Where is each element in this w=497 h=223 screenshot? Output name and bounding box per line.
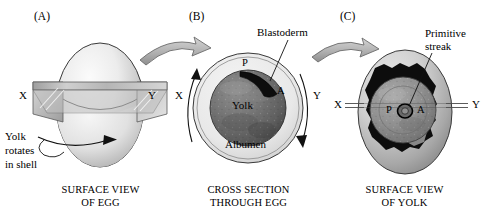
caption-c-line2: OF YOLK — [332, 197, 477, 208]
label-posterior-c: P — [386, 104, 392, 115]
caption-b-line1: CROSS SECTION — [176, 184, 321, 195]
axis-label-x-b: X — [175, 90, 183, 102]
label-posterior-b: P — [242, 57, 248, 68]
caption-a-line2: OF EGG — [28, 197, 173, 208]
annotation-primitive-streak-line1: Primitive — [425, 28, 466, 40]
label-yolk-b: Yolk — [232, 100, 253, 112]
annotation-yolk-rotates-line2: rotates — [5, 145, 34, 157]
caption-b-line2: THROUGH EGG — [176, 197, 321, 208]
arrow-a-to-b — [140, 37, 211, 65]
annotation-primitive-streak-line2: streak — [425, 41, 451, 53]
caption-c-line1: SURFACE VIEW — [332, 184, 477, 195]
figure-root: (A) (B) (C) X Y Yolk rotates in shell SU… — [0, 0, 497, 223]
rotation-arc-right-arrowhead-b — [296, 135, 307, 148]
cut-plane-band — [33, 82, 167, 90]
label-albumen-b: Albumen — [225, 139, 266, 151]
annotation-yolk-rotates-line1: Yolk — [5, 131, 26, 143]
axis-label-x-a: X — [19, 90, 27, 102]
panel-label-b: (B) — [189, 10, 204, 22]
caption-a-line1: SURFACE VIEW — [28, 184, 173, 195]
axis-label-y-c: Y — [472, 99, 480, 111]
panel-label-a: (A) — [34, 10, 50, 22]
primitive-streak-core-c — [402, 108, 409, 114]
arrow-b-to-c — [312, 38, 379, 62]
axis-label-y-a: Y — [148, 90, 156, 102]
rotation-arc-left-arrowhead-b — [191, 68, 201, 80]
axis-label-x-c: X — [334, 99, 342, 111]
label-anterior-c: A — [417, 104, 425, 115]
panel-label-c: (C) — [340, 10, 355, 22]
annotation-blastoderm: Blastoderm — [257, 27, 308, 39]
label-anterior-b: A — [277, 85, 285, 96]
annotation-yolk-rotates-line3: in shell — [5, 159, 37, 171]
axis-label-y-b: Y — [313, 90, 321, 102]
panel-c-graphics — [345, 50, 468, 174]
